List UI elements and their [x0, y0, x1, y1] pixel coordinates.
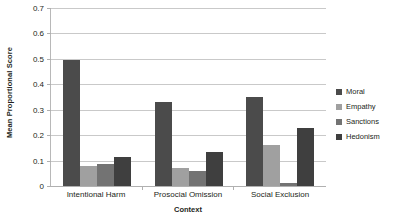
y-axis-tick-label: 0	[40, 182, 44, 191]
plot-wrapper: 00.10.20.30.40.50.60.7	[21, 8, 326, 186]
legend-swatch-icon	[336, 134, 342, 140]
bar-empathy	[80, 166, 97, 186]
bar-moral	[155, 102, 172, 186]
y-axis-tick-label: 0.6	[33, 29, 44, 38]
y-axis-tick-label: 0.4	[33, 80, 44, 89]
y-axis-tick-label: 0.5	[33, 54, 44, 63]
bar-hedonism	[206, 152, 223, 186]
gridline	[51, 186, 326, 187]
bar-chart: Mean Proportional Score 00.10.20.30.40.5…	[0, 0, 394, 221]
legend-item-empathy[interactable]: Empathy	[336, 99, 394, 114]
y-axis-tick-label: 0.2	[33, 131, 44, 140]
bar-sanctions	[97, 164, 114, 186]
legend-label: Sanctions	[346, 117, 379, 126]
plot-area	[50, 8, 326, 186]
legend-label: Empathy	[346, 102, 376, 111]
legend-label: Moral	[346, 87, 365, 96]
bars-layer	[51, 8, 326, 186]
y-axis-tickmark	[47, 186, 51, 187]
bar-empathy	[263, 145, 280, 186]
bar-hedonism	[114, 157, 131, 186]
bar-hedonism	[297, 128, 314, 186]
bar-empathy	[172, 168, 189, 186]
bar-group	[143, 8, 235, 186]
x-axis-category-label: Prosocial Omission	[142, 190, 234, 199]
bar-sanctions	[189, 171, 206, 186]
legend-item-sanctions[interactable]: Sanctions	[336, 114, 394, 129]
legend-item-hedonism[interactable]: Hedonism	[336, 129, 394, 144]
y-axis-title: Mean Proportional Score	[0, 0, 20, 185]
legend-label: Hedonism	[346, 132, 380, 141]
x-axis-category-label: Social Exclusion	[234, 190, 326, 199]
x-axis-category-label: Intentional Harm	[50, 190, 142, 199]
bar-moral	[63, 60, 80, 186]
bar-group	[234, 8, 326, 186]
bar-moral	[246, 97, 263, 186]
x-axis-category-labels: Intentional HarmProsocial OmissionSocial…	[50, 190, 326, 199]
y-axis-tick-labels: 00.10.20.30.40.50.60.7	[21, 8, 47, 186]
y-axis-tick-label: 0.7	[33, 4, 44, 13]
y-axis-title-label: Mean Proportional Score	[6, 47, 15, 138]
legend-swatch-icon	[336, 119, 342, 125]
legend-swatch-icon	[336, 89, 342, 95]
legend-swatch-icon	[336, 104, 342, 110]
bar-sanctions	[280, 183, 297, 186]
x-axis-title: Context	[50, 205, 326, 214]
y-axis-tick-label: 0.3	[33, 105, 44, 114]
chart-legend: MoralEmpathySanctionsHedonism	[336, 84, 394, 144]
bar-group	[51, 8, 143, 186]
y-axis-tick-label: 0.1	[33, 156, 44, 165]
legend-item-moral[interactable]: Moral	[336, 84, 394, 99]
